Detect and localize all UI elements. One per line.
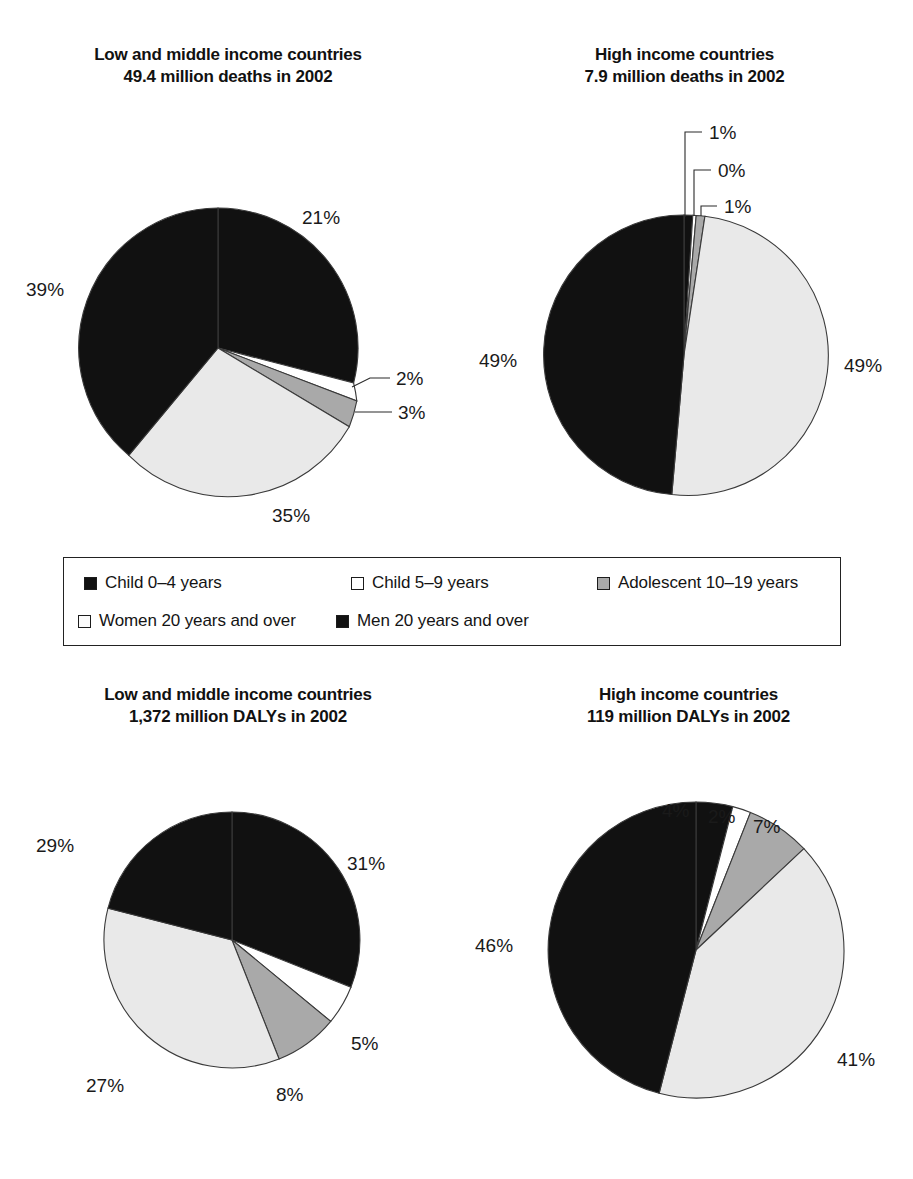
title-line-1: Low and middle income countries bbox=[0, 44, 456, 66]
pie-label-men-20-plus: 29% bbox=[36, 835, 74, 856]
legend-label: Men 20 years and over bbox=[357, 611, 529, 631]
pie-chart-bottom-left: 31% 5% 8% 27% 29% bbox=[0, 760, 456, 1179]
pie-label-child-5-9: 2% bbox=[708, 806, 736, 827]
pie-svg-bottom-right: 4% 2% 7% 41% 46% bbox=[456, 760, 913, 1179]
legend-label: Child 0–4 years bbox=[105, 573, 222, 593]
pie-label-men-20-plus: 46% bbox=[475, 935, 513, 956]
legend-item-women-20-plus[interactable]: Women 20 years and over bbox=[78, 608, 296, 634]
legend-row: Women 20 years and over Men 20 years and… bbox=[64, 608, 840, 642]
legend-item-adolescent-10-19[interactable]: Adolescent 10–19 years bbox=[597, 570, 798, 596]
legend-swatch-icon-women-20-plus bbox=[78, 615, 91, 628]
title-line-2: 1,372 million DALYs in 2002 bbox=[10, 706, 466, 728]
pie-label-women-20-plus: 27% bbox=[86, 1075, 124, 1096]
legend-item-child-5-9[interactable]: Child 5–9 years bbox=[351, 570, 489, 596]
leader-line-adolescent-10-19 bbox=[701, 206, 717, 216]
figure-canvas: Low and middle income countries 49.4 mil… bbox=[0, 0, 913, 1179]
pie-svg-bottom-left: 31% 5% 8% 27% 29% bbox=[0, 760, 456, 1179]
legend-item-men-20-plus[interactable]: Men 20 years and over bbox=[336, 608, 529, 634]
legend-label: Women 20 years and over bbox=[99, 611, 296, 631]
title-line-2: 7.9 million deaths in 2002 bbox=[456, 66, 913, 88]
legend-row: Child 0–4 years Child 5–9 years Adolesce… bbox=[64, 570, 840, 604]
leader-line-child-5-9 bbox=[352, 378, 390, 387]
pie-label-child-0-4: 4% bbox=[662, 800, 690, 821]
pie-label-women-20-plus: 49% bbox=[844, 355, 882, 376]
title-line-1: High income countries bbox=[456, 44, 913, 66]
title-line-1: Low and middle income countries bbox=[10, 684, 466, 706]
legend-swatch-icon-child-0-4 bbox=[84, 577, 97, 590]
pie-svg-top-right: 1% 0% 1% 49% 49% bbox=[456, 110, 913, 550]
legend: Child 0–4 years Child 5–9 years Adolesce… bbox=[63, 557, 841, 646]
pie-label-child-0-4: 21% bbox=[302, 207, 340, 228]
pie-label-adolescent-10-19: 3% bbox=[398, 402, 426, 423]
pie-label-child-5-9: 0% bbox=[718, 160, 746, 181]
legend-swatch-icon-men-20-plus bbox=[336, 615, 349, 628]
chart-title-top-right: High income countries 7.9 million deaths… bbox=[456, 44, 913, 88]
pie-chart-top-left: 21% 2% 3% 35% 39% bbox=[0, 150, 456, 550]
leader-line-child-5-9 bbox=[694, 170, 711, 216]
pie-label-child-5-9: 2% bbox=[396, 368, 424, 389]
pie-chart-top-right: 1% 0% 1% 49% 49% bbox=[456, 110, 913, 550]
pie-chart-bottom-right: 4% 2% 7% 41% 46% bbox=[456, 760, 913, 1179]
pie-label-adolescent-10-19: 7% bbox=[753, 816, 781, 837]
legend-swatch-icon-child-5-9 bbox=[351, 577, 364, 590]
pie-label-women-20-plus: 41% bbox=[837, 1049, 875, 1070]
pie-label-child-0-4: 1% bbox=[709, 122, 737, 143]
chart-title-top-left: Low and middle income countries 49.4 mil… bbox=[0, 44, 456, 88]
title-line-1: High income countries bbox=[460, 684, 913, 706]
legend-label: Child 5–9 years bbox=[372, 573, 489, 593]
pie-slice-men-20-plus bbox=[544, 215, 684, 495]
chart-title-bottom-left: Low and middle income countries 1,372 mi… bbox=[10, 684, 466, 728]
pie-label-child-5-9: 5% bbox=[351, 1033, 379, 1054]
pie-svg-top-left: 21% 2% 3% 35% 39% bbox=[0, 150, 456, 550]
legend-item-child-0-4[interactable]: Child 0–4 years bbox=[84, 570, 222, 596]
pie-label-men-20-plus: 49% bbox=[479, 350, 517, 371]
title-line-2: 119 million DALYs in 2002 bbox=[460, 706, 913, 728]
legend-swatch-icon-adolescent-10-19 bbox=[597, 577, 610, 590]
legend-label: Adolescent 10–19 years bbox=[618, 573, 798, 593]
pie-label-men-20-plus: 39% bbox=[26, 279, 64, 300]
pie-label-adolescent-10-19: 8% bbox=[276, 1084, 304, 1105]
pie-label-child-0-4: 31% bbox=[347, 853, 385, 874]
pie-label-adolescent-10-19: 1% bbox=[724, 196, 752, 217]
title-line-2: 49.4 million deaths in 2002 bbox=[0, 66, 456, 88]
chart-title-bottom-right: High income countries 119 million DALYs … bbox=[460, 684, 913, 728]
pie-label-women-20-plus: 35% bbox=[272, 505, 310, 526]
